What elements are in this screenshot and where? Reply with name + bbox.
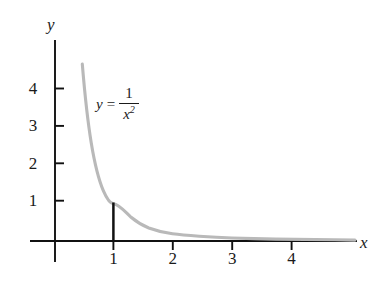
plot-canvas: [0, 0, 384, 298]
axes-group: [30, 40, 357, 262]
y-tick-label-4: 4: [22, 80, 44, 97]
equation-operator: =: [107, 96, 115, 113]
function-graph-figure: y x 1 2 3 4 1 2 3 4 y = 1 x2: [0, 0, 384, 298]
equation-denominator: x2: [119, 104, 139, 123]
x-axis-label: x: [360, 234, 368, 251]
y-tick-label-1: 1: [22, 192, 44, 209]
curve-equation-annotation: y = 1 x2: [96, 86, 139, 123]
y-axis-label: y: [47, 16, 55, 33]
equation-denominator-exponent: 2: [130, 104, 135, 115]
x-tick-label-4: 4: [281, 250, 303, 267]
y-tick-label-3: 3: [22, 117, 44, 134]
y-tick-label-2: 2: [22, 155, 44, 172]
equation-fraction: 1 x2: [119, 86, 139, 123]
equation-lhs: y: [96, 96, 103, 113]
x-tick-label-3: 3: [221, 250, 243, 267]
x-axis-ticks: [113, 241, 291, 250]
x-tick-label-1: 1: [102, 250, 124, 267]
equation-denominator-base: x: [123, 106, 130, 122]
x-tick-label-2: 2: [162, 250, 184, 267]
equation-numerator: 1: [121, 86, 137, 103]
y-axis-ticks: [55, 89, 64, 201]
